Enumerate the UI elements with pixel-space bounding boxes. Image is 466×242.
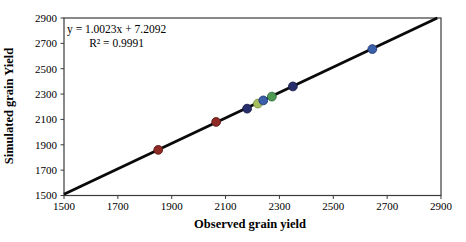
y-axis-title: Simulated grain Yield: [2, 48, 17, 164]
y-tick-label: 2900: [35, 12, 58, 24]
x-tick-label: 2500: [322, 200, 345, 212]
y-tick-label: 1900: [35, 139, 58, 151]
equation-text: y = 1.0023x + 7.2092: [67, 22, 166, 36]
x-tick-label: 2100: [215, 200, 238, 212]
data-point-blue-points: [259, 96, 268, 105]
data-point-dark-red-points: [154, 145, 163, 154]
y-tick-label: 2500: [35, 63, 58, 75]
data-point-blue-points: [368, 45, 377, 54]
scatter-chart-figure: 1500170019002100230025002700290015001700…: [0, 0, 466, 242]
y-tick-label: 2300: [35, 88, 58, 100]
x-tick-label: 2900: [430, 200, 453, 212]
trendline-equation: y = 1.0023x + 7.2092 R² = 0.9991: [67, 22, 166, 50]
data-point-green-points: [267, 92, 276, 101]
y-tick-label: 2100: [35, 113, 58, 125]
y-tick-label: 2700: [35, 37, 58, 49]
x-tick-label: 2300: [268, 200, 291, 212]
x-tick-label: 1500: [53, 200, 76, 212]
x-tick-label: 2700: [376, 200, 399, 212]
data-point-navy-points: [288, 82, 297, 91]
r-squared-text: R² = 0.9991: [67, 36, 166, 50]
y-tick-label: 1500: [35, 189, 58, 201]
x-tick-label: 1700: [107, 200, 130, 212]
data-point-dark-red-points: [212, 118, 221, 127]
x-tick-label: 1900: [161, 200, 184, 212]
x-axis-title: Observed grain yield: [194, 217, 306, 232]
y-tick-label: 1700: [35, 164, 58, 176]
data-point-navy-points: [243, 104, 252, 113]
